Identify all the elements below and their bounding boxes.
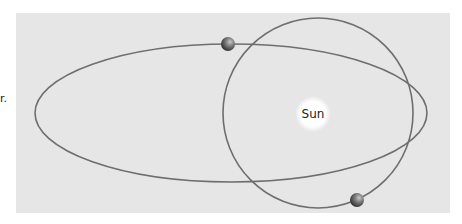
- planet-circular-icon: [350, 193, 364, 207]
- orbit-diagram: Sun: [0, 0, 462, 224]
- sun-label: Sun: [302, 107, 325, 121]
- sun: Sun: [295, 96, 331, 132]
- planet-elliptical-icon: [221, 37, 235, 51]
- elliptical-orbit: [35, 44, 427, 182]
